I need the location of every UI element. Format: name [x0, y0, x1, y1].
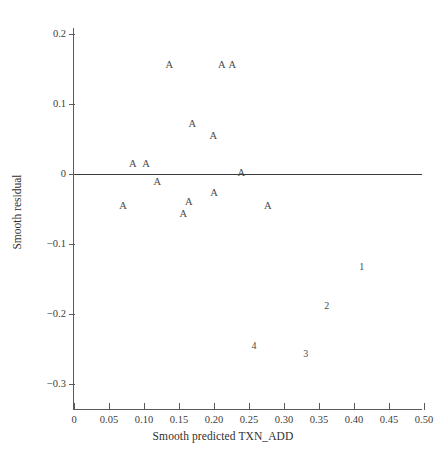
x-tick-mark	[424, 403, 425, 410]
y-tick-label: 0.1	[28, 99, 66, 109]
y-tick-label: −0.3	[28, 379, 66, 389]
data-point-marker: A	[225, 60, 239, 70]
y-tick-label: −0.1	[28, 239, 66, 249]
y-tick-mark	[69, 384, 75, 385]
x-tick-mark	[179, 403, 180, 410]
x-tick-mark	[319, 403, 320, 410]
x-axis-title: Smooth predicted TXN_ADD	[0, 430, 446, 442]
y-tick-mark	[69, 104, 75, 105]
y-tick-mark	[69, 244, 75, 245]
y-tick-label: 0	[28, 169, 66, 179]
y-axis-title: Smooth residual	[11, 142, 23, 282]
scatter-plot-figure: 0.20.10−0.1−0.2−0.3 00.050.100.150.200.2…	[0, 0, 446, 458]
data-point-marker: A	[206, 131, 220, 141]
data-point-marker: A	[207, 188, 221, 198]
data-point-marker: A	[126, 159, 140, 169]
x-tick-mark	[109, 403, 110, 410]
y-tick-mark	[69, 174, 75, 175]
y-tick-label: 0.2	[28, 29, 66, 39]
data-point-marker: A	[185, 119, 199, 129]
data-point-marker: A	[139, 159, 153, 169]
x-tick-mark	[144, 403, 145, 410]
y-tick-label: −0.2	[28, 309, 66, 319]
data-point-marker: A	[234, 168, 248, 178]
x-tick-label: 0.50	[401, 414, 446, 425]
data-point-marker: 4	[247, 341, 261, 351]
data-point-marker: A	[116, 201, 130, 211]
y-tick-mark	[69, 34, 75, 35]
plot-area: 0.20.10−0.1−0.2−0.3 00.050.100.150.200.2…	[0, 0, 446, 458]
x-tick-mark	[389, 403, 390, 410]
data-point-marker: 3	[299, 349, 313, 359]
data-point-marker: 2	[320, 301, 334, 311]
data-point-marker: A	[150, 177, 164, 187]
data-point-marker: A	[261, 201, 275, 211]
y-axis-line	[73, 28, 74, 410]
data-point-marker: A	[176, 209, 190, 219]
x-axis-line	[73, 409, 422, 410]
data-point-marker: A	[182, 197, 196, 207]
x-tick-mark	[354, 403, 355, 410]
data-point-marker: A	[162, 60, 176, 70]
data-point-marker: 1	[355, 262, 369, 272]
x-tick-mark	[74, 403, 75, 410]
x-tick-mark	[249, 403, 250, 410]
x-tick-mark	[284, 403, 285, 410]
x-tick-mark	[214, 403, 215, 410]
y-tick-mark	[69, 314, 75, 315]
